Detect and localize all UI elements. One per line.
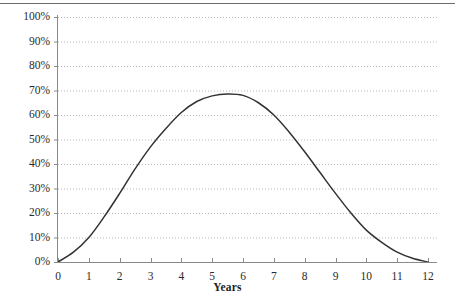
y-axis-tick-label-text: 10% xyxy=(2,232,50,243)
x-axis-title: Years xyxy=(0,281,455,293)
y-axis-tick-label-text: 50% xyxy=(2,134,50,145)
x-axis-line xyxy=(57,262,437,263)
y-axis-tick-label-text: 60% xyxy=(2,109,50,120)
gridlines-group xyxy=(58,18,437,263)
y-axis-tick-label: 50% xyxy=(0,134,50,145)
chart-canvas xyxy=(0,0,455,303)
y-axis-tick-label: 40% xyxy=(0,158,50,169)
y-axis-line xyxy=(57,15,58,263)
y-axis-tick-label-text: 90% xyxy=(2,36,50,47)
y-axis-tick-label-text: 20% xyxy=(2,207,50,218)
y-axis-tick-label: 20% xyxy=(0,207,50,218)
y-axis-tick-label-text: 30% xyxy=(2,183,50,194)
y-axis-tick-label: 10% xyxy=(0,232,50,243)
y-axis-tick-label: 80% xyxy=(0,60,50,71)
y-axis-tick-label: 30% xyxy=(0,183,50,194)
y-axis-tick-label: 60% xyxy=(0,109,50,120)
top-border-rule xyxy=(0,3,455,4)
chart-figure: 0%10%20%30%40%50%60%70%80%90%100% 012345… xyxy=(0,0,455,303)
y-axis-tick-label-text: 100% xyxy=(2,11,50,22)
y-axis-tick-label-text: 80% xyxy=(2,60,50,71)
y-axis-tick-label: 100% xyxy=(0,11,50,22)
axis-ticks-group xyxy=(54,18,429,263)
y-axis-tick-label-text: 40% xyxy=(2,158,50,169)
y-axis-tick-label: 90% xyxy=(0,36,50,47)
y-axis-tick-label-text: 70% xyxy=(2,85,50,96)
data-series-line xyxy=(58,94,428,262)
y-axis-tick-label: 70% xyxy=(0,85,50,96)
